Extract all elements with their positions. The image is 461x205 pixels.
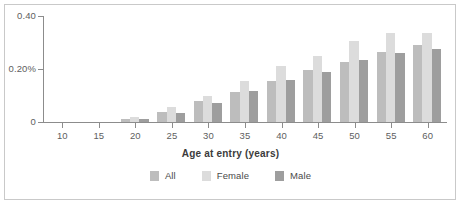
legend-swatch-icon xyxy=(275,171,284,181)
x-tick-label: 60 xyxy=(422,130,433,141)
bar-female-45 xyxy=(313,56,322,122)
x-tick-mark xyxy=(355,123,356,128)
bar-all-25 xyxy=(157,112,166,122)
bar-male-25 xyxy=(176,113,185,122)
bar-male-55 xyxy=(395,53,404,122)
legend-swatch-icon xyxy=(202,171,211,181)
y-tick-label: 0.20% xyxy=(9,63,36,74)
y-tick-label: 0 xyxy=(31,116,36,127)
bar-female-20 xyxy=(130,117,139,122)
x-tick-mark xyxy=(391,123,392,128)
x-tick-label: 35 xyxy=(240,130,251,141)
bar-male-45 xyxy=(322,72,331,122)
x-tick-label: 30 xyxy=(203,130,214,141)
bar-female-35 xyxy=(240,81,249,122)
x-tick-mark xyxy=(62,123,63,128)
legend-label: Female xyxy=(217,170,249,181)
x-tick-label: 20 xyxy=(130,130,141,141)
x-tick-label: 55 xyxy=(386,130,397,141)
bar-male-20 xyxy=(139,119,148,122)
x-tick-mark xyxy=(282,123,283,128)
bar-all-50 xyxy=(340,62,349,122)
y-tick-mark xyxy=(38,122,43,123)
bar-female-40 xyxy=(276,66,285,122)
x-tick-mark xyxy=(428,123,429,128)
bar-all-40 xyxy=(267,81,276,122)
figure-container: 00.20%0.40 1015202530354045505560 Age at… xyxy=(0,0,461,205)
x-tick-label: 40 xyxy=(276,130,287,141)
bar-female-30 xyxy=(203,96,212,123)
y-tick-mark xyxy=(38,16,43,17)
bar-male-35 xyxy=(249,91,258,122)
bar-all-60 xyxy=(413,45,422,122)
bar-female-55 xyxy=(386,33,395,122)
x-tick-mark xyxy=(245,123,246,128)
x-tick-label: 50 xyxy=(349,130,360,141)
bar-female-50 xyxy=(349,41,358,122)
x-tick-mark xyxy=(172,123,173,128)
bar-male-30 xyxy=(212,103,221,122)
x-tick-label: 45 xyxy=(313,130,324,141)
y-tick-label: 0.40 xyxy=(17,10,36,21)
bar-all-55 xyxy=(377,52,386,122)
x-tick-mark xyxy=(135,123,136,128)
bar-female-60 xyxy=(422,33,431,122)
chart-legend: AllFemaleMale xyxy=(0,170,461,181)
bar-male-60 xyxy=(432,49,441,122)
bar-female-25 xyxy=(167,107,176,122)
x-tick-mark xyxy=(99,123,100,128)
legend-item-male[interactable]: Male xyxy=(275,170,311,181)
bar-all-45 xyxy=(303,70,312,122)
x-tick-label: 10 xyxy=(57,130,68,141)
bar-all-20 xyxy=(121,119,130,122)
legend-item-female[interactable]: Female xyxy=(202,170,249,181)
x-axis-title: Age at entry (years) xyxy=(0,148,461,159)
bar-male-40 xyxy=(286,80,295,122)
legend-swatch-icon xyxy=(150,171,159,181)
y-tick-mark xyxy=(38,69,43,70)
bar-all-35 xyxy=(230,92,239,122)
x-tick-mark xyxy=(318,123,319,128)
bar-male-50 xyxy=(359,60,368,122)
legend-label: Male xyxy=(290,170,311,181)
legend-label: All xyxy=(165,170,176,181)
x-tick-mark xyxy=(208,123,209,128)
legend-item-all[interactable]: All xyxy=(150,170,176,181)
x-tick-label: 25 xyxy=(167,130,178,141)
x-tick-label: 15 xyxy=(93,130,104,141)
bars-layer xyxy=(44,16,446,122)
bar-all-30 xyxy=(194,101,203,122)
